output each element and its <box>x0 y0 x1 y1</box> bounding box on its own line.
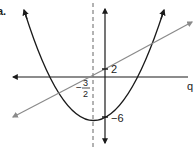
graph: a. 2 −6 q − 3 2 <box>0 0 194 148</box>
linear-function <box>105 22 192 69</box>
parabola <box>25 13 163 121</box>
fraction-sign: − <box>76 82 82 93</box>
label-neg6: −6 <box>111 112 124 124</box>
label-2: 2 <box>111 63 117 75</box>
label-x-axis: q <box>187 80 193 92</box>
fraction-numerator: 3 <box>83 78 88 88</box>
fraction-denominator: 2 <box>83 89 88 99</box>
linear-function-lower <box>13 69 105 117</box>
parabola-arrow-right <box>161 10 164 19</box>
parabola-arrow-left <box>24 10 27 19</box>
part-label: a. <box>0 5 6 17</box>
